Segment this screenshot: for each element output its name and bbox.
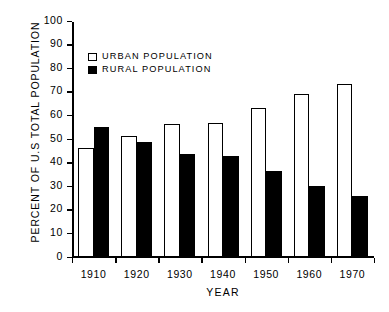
bar-urban-1950 (251, 108, 267, 257)
bar-urban-1960 (294, 94, 310, 257)
x-tick (72, 258, 73, 263)
y-tick: 90 (67, 44, 72, 45)
chart-legend: URBAN POPULATIONRURAL POPULATION (88, 50, 213, 76)
x-tick (115, 258, 116, 263)
legend-label: URBAN POPULATION (102, 50, 213, 63)
legend-item-urban: URBAN POPULATION (88, 50, 213, 63)
x-tick-label: 1920 (124, 268, 150, 280)
legend-label: RURAL POPULATION (102, 63, 212, 76)
y-tick-label: 30 (50, 179, 63, 191)
bar-rural-1950 (266, 171, 282, 256)
y-tick: 20 (67, 209, 72, 210)
bar-rural-1960 (309, 186, 325, 257)
x-axis-line (72, 256, 374, 258)
bar-urban-1910 (78, 148, 94, 257)
bar-rural-1940 (223, 156, 239, 256)
y-tick-label: 60 (50, 108, 63, 120)
x-tick-label: 1940 (210, 268, 236, 280)
bar-urban-1920 (121, 136, 137, 256)
x-tick-label: 1960 (296, 268, 322, 280)
bar-urban-1930 (164, 124, 180, 256)
legend-item-rural: RURAL POPULATION (88, 63, 213, 76)
y-tick-label: 80 (50, 61, 63, 73)
bar-rural-1910 (94, 127, 110, 257)
y-axis-line (72, 22, 74, 258)
bar-urban-1970 (337, 84, 353, 256)
bar-rural-1970 (352, 196, 368, 256)
y-tick-label: 20 (50, 202, 63, 214)
y-tick: 70 (67, 91, 72, 92)
y-tick: 30 (67, 186, 72, 187)
legend-swatch-filled-icon (88, 66, 97, 74)
x-tick (158, 258, 159, 263)
y-tick-label: 40 (50, 155, 63, 167)
y-tick: 50 (67, 139, 72, 140)
y-tick-label: 50 (50, 132, 63, 144)
x-tick-label: 1930 (167, 268, 193, 280)
y-tick: 100 (67, 21, 72, 22)
y-tick-label: 90 (50, 37, 63, 49)
x-tick (288, 258, 289, 263)
y-tick-label: 0 (57, 250, 63, 262)
x-tick-label: 1970 (340, 268, 366, 280)
y-tick: 80 (67, 68, 72, 69)
x-tick-label: 1950 (253, 268, 279, 280)
x-tick (331, 258, 332, 263)
legend-swatch-hollow-icon (88, 53, 97, 61)
y-tick-label: 70 (50, 84, 63, 96)
bar-rural-1930 (180, 154, 196, 257)
bar-chart-figure: PERCENT OF U.S TOTAL POPULATION 01020304… (0, 0, 389, 312)
x-tick (245, 258, 246, 263)
y-tick: 60 (67, 115, 72, 116)
y-tick-label: 10 (50, 226, 63, 238)
y-tick: 10 (67, 233, 72, 234)
y-tick-label: 100 (44, 14, 63, 26)
bar-rural-1920 (137, 142, 153, 256)
x-tick-label: 1910 (81, 268, 107, 280)
bar-urban-1940 (208, 123, 224, 256)
y-axis-title: PERCENT OF U.S TOTAL POPULATION (29, 7, 41, 257)
x-tick (201, 258, 202, 263)
x-axis-title: YEAR (72, 286, 374, 298)
y-tick: 40 (67, 162, 72, 163)
x-tick (374, 258, 375, 263)
